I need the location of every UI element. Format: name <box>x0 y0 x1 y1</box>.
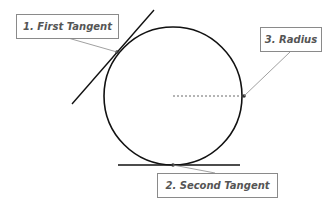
first-tangent-label: 1. First Tangent <box>16 14 119 39</box>
second-tangent-label: 2. Second Tangent <box>157 173 278 198</box>
leader-line-1 <box>68 38 117 52</box>
leader-line-2 <box>173 165 215 173</box>
radius-label: 3. Radius <box>260 27 322 52</box>
leader-line-3 <box>244 52 290 96</box>
